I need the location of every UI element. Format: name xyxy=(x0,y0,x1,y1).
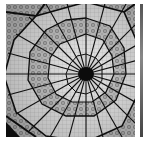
adjacent-thumbnail-edge xyxy=(140,4,143,137)
caption xyxy=(0,140,143,152)
dome-illustration xyxy=(6,4,135,137)
dome-photo xyxy=(6,4,135,137)
